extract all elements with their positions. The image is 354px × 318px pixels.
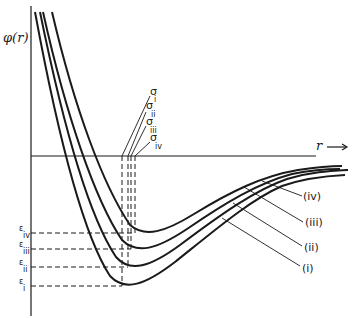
curve-ii [40, 12, 348, 266]
potential-energy-diagram: φ(r) r σ i σ ii σ iii σ iv ε iv ε iii [0, 0, 354, 318]
curve-i-label: (i) [302, 262, 314, 275]
curve-iii-label: (iii) [305, 216, 323, 229]
epsilon-i-label: ε i [19, 277, 25, 293]
y-axis-label: φ(r) [3, 30, 28, 45]
curve-iv-label: (iv) [303, 190, 321, 203]
svg-text:i: i [23, 284, 25, 293]
sigma-iv-label: σ iv [150, 131, 162, 151]
curve-i-leader [222, 218, 300, 266]
curve-iii-leader [244, 187, 303, 222]
svg-text:iv: iv [23, 231, 30, 240]
svg-text:ii: ii [23, 265, 27, 274]
x-axis-label: r [316, 138, 323, 153]
epsilon-iv-label: ε iv [19, 224, 30, 240]
epsilon-ii-label: ε ii [19, 258, 27, 274]
curve-ii-leader [233, 203, 302, 246]
curve-ii-label: (ii) [304, 241, 319, 254]
epsilon-iii-label: ε iii [19, 240, 30, 256]
curve-iv [52, 12, 342, 232]
curve-iii [43, 12, 340, 248]
svg-text:iii: iii [23, 247, 30, 256]
svg-text:iv: iv [155, 142, 162, 151]
svg-text:i: i [154, 95, 156, 104]
sigma-ii-leader [128, 112, 146, 156]
